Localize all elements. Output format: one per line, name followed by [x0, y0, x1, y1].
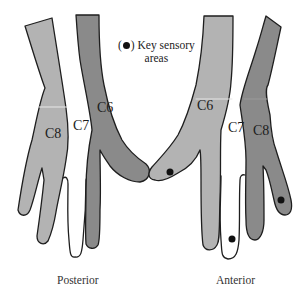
key-sensory-dot-c6 — [167, 169, 174, 176]
key-sensory-dot-c7 — [229, 236, 236, 243]
posterior-label-c7: C7 — [73, 119, 89, 133]
anterior-label-c8: C8 — [253, 124, 269, 138]
anterior-label-c6: C6 — [197, 99, 213, 113]
legend-paren-close: ) — [131, 39, 135, 51]
legend-paren-open: ( — [118, 39, 122, 51]
posterior-caption: Posterior — [57, 274, 99, 286]
legend-dot-icon — [123, 42, 130, 49]
anterior-label-c7: C7 — [228, 121, 244, 135]
dermatome-hand-diagram: () Key sensory areas C8 C7 C6 C6 C7 C8 P… — [0, 0, 305, 296]
anterior-caption: Anterior — [216, 274, 255, 286]
posterior-label-c8: C8 — [45, 127, 61, 141]
anterior-c7-region — [220, 175, 245, 259]
legend: () Key sensory areas — [118, 39, 195, 64]
key-sensory-dot-c8 — [278, 197, 285, 204]
posterior-label-c6: C6 — [97, 101, 113, 115]
legend-text-line1: Key sensory — [138, 39, 195, 51]
legend-text-line2: areas — [118, 52, 195, 65]
legend-line-1: () Key sensory — [118, 39, 195, 52]
